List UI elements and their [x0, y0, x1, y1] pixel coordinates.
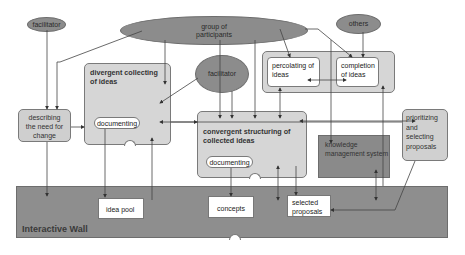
divergent-collecting-box: divergent collecting of ideas: [84, 63, 171, 145]
describing-need-label: describing the need for change: [19, 110, 70, 140]
percolating-of-ideas-box: percolating of ideas: [267, 57, 320, 87]
interactive-wall-label: Interactive Wall: [22, 224, 88, 234]
describing-need-box: describing the need for change: [18, 109, 71, 142]
facilitator-center-actor: facilitator: [195, 55, 249, 93]
completion-of-ideas-box: completion of ideas: [336, 57, 379, 87]
convergent-knob: [249, 173, 261, 179]
connector-knob: [229, 234, 241, 240]
group-of-participants-label: group of participants: [196, 23, 232, 39]
convergent-documenting-pill: documenting: [206, 156, 253, 168]
group-of-participants-actor: group of participants: [120, 16, 308, 45]
idea-pool-box: idea pool: [98, 198, 144, 219]
interactive-wall-diagram: Interactive Wall idea pool concepts sele…: [0, 0, 465, 255]
knowledge-management-system-box: knowledge management system: [318, 135, 390, 178]
divergent-documenting-pill: documenting: [94, 117, 140, 129]
divergent-knob: [124, 140, 136, 146]
concepts-box: concepts: [208, 196, 254, 218]
divergent-collecting-title: divergent collecting of ideas: [85, 64, 162, 86]
facilitator-left-actor: facilitator: [27, 17, 66, 32]
others-actor: others: [336, 14, 381, 34]
prioritizing-selecting-label: prioritizing and selecting proposals: [403, 110, 447, 151]
selected-proposals-box: selected proposals: [287, 195, 331, 217]
convergent-structuring-title: convergent structuring of collected idea…: [198, 112, 299, 145]
prioritizing-selecting-box: prioritizing and selecting proposals: [402, 109, 448, 161]
